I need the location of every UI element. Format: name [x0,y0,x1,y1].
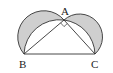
label-c: C [91,58,98,70]
label-a: A [61,5,69,17]
label-b: B [19,58,26,70]
lune-ab [18,11,64,54]
lune-ac [64,14,103,54]
right-angle-marker [61,23,68,27]
lune-diagram: A B C [0,0,113,73]
